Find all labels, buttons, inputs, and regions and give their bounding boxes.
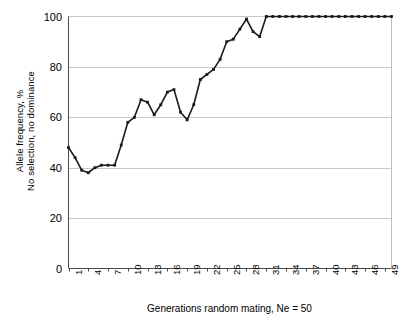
- x-tick-label: 10: [133, 264, 143, 275]
- allele-frequency-chart: Allele frequency, % No selection, no dom…: [0, 0, 413, 326]
- x-tick-label: 1: [74, 269, 84, 274]
- x-tick-label: 16: [172, 264, 182, 275]
- x-tick-label: 34: [291, 264, 301, 275]
- x-tick-label: 4: [93, 269, 103, 274]
- x-tick-label: 13: [153, 264, 163, 275]
- x-tick-label: 22: [212, 264, 222, 275]
- x-axis-title: Generations random mating, Ne = 50: [68, 303, 391, 314]
- x-tick-label: 43: [350, 264, 360, 275]
- x-tick-label: 46: [370, 264, 380, 275]
- x-tick-label: 31: [271, 264, 281, 275]
- x-tick-label: 7: [113, 269, 123, 274]
- x-tick-label: 25: [232, 264, 242, 275]
- x-tick-label: 49: [390, 264, 400, 275]
- x-tick-label: 40: [331, 264, 341, 275]
- x-tick-label: 19: [192, 264, 202, 275]
- x-tick-label: 28: [251, 264, 261, 275]
- x-tick-label: 37: [311, 264, 321, 275]
- x-axis-tick-labels: 1471013161922252831343740434649: [0, 0, 413, 326]
